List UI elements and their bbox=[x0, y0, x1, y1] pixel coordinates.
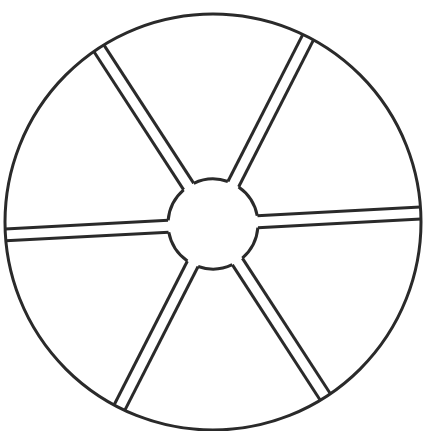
spoke-6-edge-2 bbox=[239, 40, 314, 187]
spoke-3-edge-1 bbox=[125, 266, 198, 410]
spoke-5-edge-2 bbox=[104, 45, 194, 183]
spoke-6-edge-1 bbox=[228, 34, 303, 181]
spoke-5-edge-1 bbox=[94, 52, 184, 190]
wheel-diagram bbox=[0, 0, 428, 431]
spoke-1-edge-2 bbox=[258, 219, 421, 228]
spoke-2-edge-1 bbox=[242, 258, 330, 394]
spoke-2-edge-2 bbox=[232, 265, 320, 401]
spoke-3-edge-2 bbox=[114, 261, 187, 405]
spoke-4-edge-2 bbox=[5, 220, 168, 229]
spoke-4-edge-1 bbox=[6, 232, 169, 241]
spoke-1-edge-1 bbox=[257, 207, 420, 216]
